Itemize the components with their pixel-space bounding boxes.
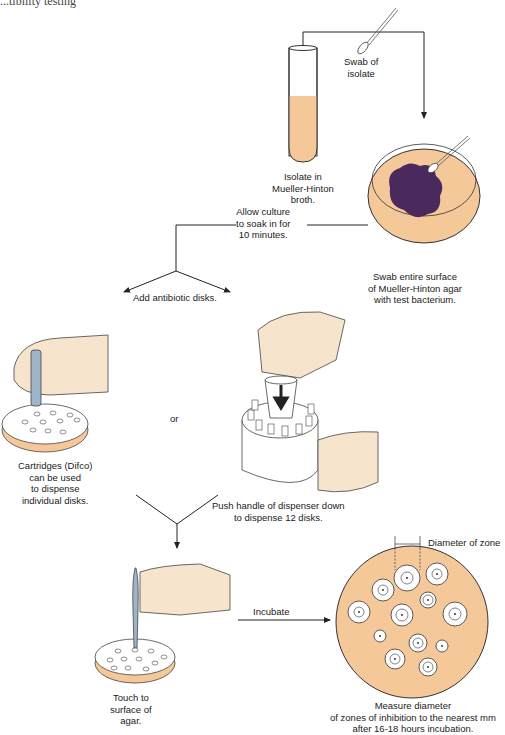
label-swab-plate: Swab entire surface of Mueller-Hinton ag… xyxy=(368,271,462,306)
agar-plate-swabbed-icon xyxy=(368,136,480,243)
label-measure-diameter: Measure diameter of zones of inhibition … xyxy=(330,700,496,735)
label-isolate-in-broth: Isolate in Mueller-Hinton broth. xyxy=(272,171,334,206)
label-touch-agar: Touch to surface of agar. xyxy=(110,692,152,727)
inhibition-zone-plate xyxy=(336,536,488,698)
label-cartridges: Cartridges (Difco) can be used to dispen… xyxy=(18,460,92,506)
test-tube-icon xyxy=(289,46,317,163)
label-or: or xyxy=(170,413,178,425)
label-soak: Allow culture to soak in for 10 minutes. xyxy=(236,206,290,241)
disk-dispenser-illustration xyxy=(242,312,378,492)
label-dispenser: Push handle of dispenser down to dispens… xyxy=(212,500,345,523)
label-incubate: Incubate xyxy=(253,606,289,618)
label-diameter-of-zone: Diameter of zone xyxy=(428,537,500,549)
label-add-antibiotic-disks: Add antibiotic disks. xyxy=(133,292,217,304)
label-swab-of-isolate: Swab of isolate xyxy=(344,56,378,79)
forceps-touch-illustration xyxy=(95,564,230,683)
cartridge-dispenser-illustration xyxy=(2,335,108,452)
